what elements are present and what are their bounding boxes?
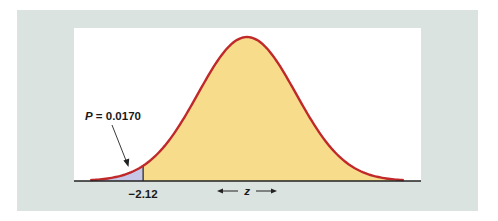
p-value-label: P = 0.0170 — [85, 110, 141, 122]
z-label: z — [243, 185, 250, 197]
chart-panel: P = 0.0170 −2.12 z — [17, 10, 478, 211]
normal-curve-chart: P = 0.0170 −2.12 z — [17, 10, 478, 211]
critical-value-label: −2.12 — [129, 188, 158, 200]
